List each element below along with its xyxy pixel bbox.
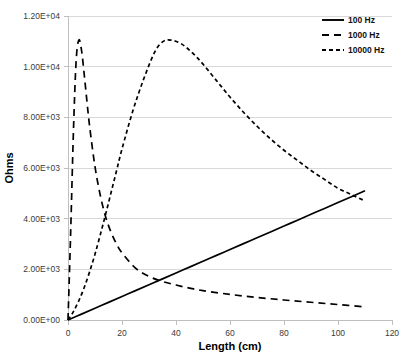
x-tick-label: 80 bbox=[279, 328, 289, 338]
y-tick-label: 2.00E+03 bbox=[23, 264, 60, 274]
legend: 100 Hz1000 Hz10000 Hz bbox=[322, 15, 384, 55]
y-axis bbox=[64, 16, 68, 320]
series-line-10000-hz bbox=[68, 40, 365, 320]
x-tick-label: 20 bbox=[117, 328, 127, 338]
x-tick-label: 60 bbox=[225, 328, 235, 338]
y-tick-label: 0.00E+00 bbox=[23, 315, 60, 325]
line-chart: 020406080100120 0.00E+002.00E+034.00E+03… bbox=[0, 0, 408, 354]
x-tick-labels: 020406080100120 bbox=[66, 328, 400, 338]
data-series-group bbox=[68, 40, 365, 320]
y-tick-label: 4.00E+03 bbox=[23, 214, 60, 224]
x-tick-label: 0 bbox=[66, 328, 71, 338]
x-axis-title: Length (cm) bbox=[199, 340, 262, 352]
gridlines bbox=[68, 16, 392, 320]
x-tick-label: 120 bbox=[385, 328, 399, 338]
x-tick-label: 40 bbox=[171, 328, 181, 338]
legend-label-1000-hz: 1000 Hz bbox=[348, 30, 380, 40]
legend-label-100-hz: 100 Hz bbox=[348, 15, 375, 25]
y-axis-title: Ohms bbox=[3, 152, 15, 183]
y-tick-labels: 0.00E+002.00E+034.00E+036.00E+038.00E+03… bbox=[23, 11, 60, 325]
legend-label-10000-hz: 10000 Hz bbox=[348, 45, 384, 55]
y-tick-label: 1.20E+04 bbox=[23, 11, 60, 21]
chart-container: 020406080100120 0.00E+002.00E+034.00E+03… bbox=[0, 0, 408, 354]
y-tick-label: 1.00E+04 bbox=[23, 62, 60, 72]
y-tick-label: 6.00E+03 bbox=[23, 163, 60, 173]
x-tick-label: 100 bbox=[331, 328, 345, 338]
series-line-100-hz bbox=[68, 191, 365, 320]
y-tick-label: 8.00E+03 bbox=[23, 112, 60, 122]
x-axis bbox=[68, 320, 392, 325]
